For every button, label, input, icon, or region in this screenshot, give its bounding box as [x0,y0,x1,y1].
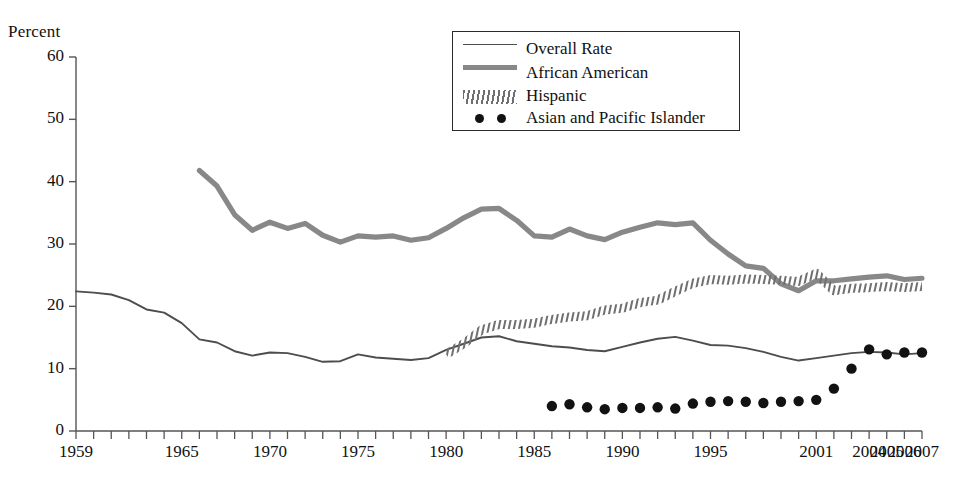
y-tick-20: 20 [24,295,64,315]
chart-series [76,170,927,414]
legend-label-asian-pacific-islander: Asian and Pacific Islander [526,109,705,126]
x-tick-1985: 1985 [517,442,551,462]
data-point [600,404,610,414]
y-tick-0: 0 [24,420,64,440]
data-point [811,395,821,405]
legend-item-asian-pacific-islander: Asian and Pacific Islander [463,105,705,129]
x-tick-1980: 1980 [429,442,463,462]
data-point [776,397,786,407]
legend-label-hispanic: Hispanic [526,87,586,104]
data-point [547,401,557,411]
data-point [829,383,839,393]
x-tick-1995: 1995 [694,442,728,462]
data-point [882,349,892,359]
data-point [582,402,592,412]
data-point [617,403,627,413]
data-point [652,402,662,412]
y-tick-50: 50 [24,108,64,128]
data-point [705,397,715,407]
x-tick-1975: 1975 [341,442,375,462]
data-point [917,347,927,357]
data-point [846,363,856,373]
y-tick-10: 10 [24,358,64,378]
data-point [635,403,645,413]
legend-item-african-american: African American [463,60,648,84]
x-tick-1965: 1965 [165,442,199,462]
data-point [864,344,874,354]
y-tick-60: 60 [24,46,64,66]
data-point [758,398,768,408]
data-point [688,398,698,408]
legend-label-african-american: African American [526,64,648,81]
legend-item-hispanic: Hispanic [463,83,586,107]
y-tick-40: 40 [24,171,64,191]
x-tick-1959: 1959 [59,442,93,462]
data-point [670,403,680,413]
y-tick-30: 30 [24,233,64,253]
data-point [564,399,574,409]
legend-item-overall-rate: Overall Rate [463,36,612,60]
x-tick-1990: 1990 [605,442,639,462]
x-tick-2001: 2001 [799,442,833,462]
data-point [793,396,803,406]
legend-label-overall-rate: Overall Rate [526,40,612,57]
thick-line-swatch-icon [463,65,517,84]
hatched-line-swatch-icon [463,90,517,104]
thin-line-swatch-icon [463,44,517,59]
x-tick-2007: 2007 [905,442,939,462]
data-point [899,347,909,357]
data-point [723,396,733,406]
chart-container: Percent 0102030405060 195919651970197519… [0,0,956,479]
data-point [741,397,751,407]
dots-swatch-icon [463,112,517,126]
x-tick-1970: 1970 [253,442,287,462]
chart-legend: Overall Rate African American Hispanic A… [452,31,740,131]
